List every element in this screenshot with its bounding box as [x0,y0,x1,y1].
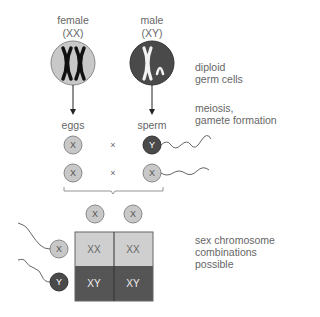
egg-x: X [64,136,82,154]
sperm-x: X [143,164,161,182]
combinations-label-line2: combinations [195,246,257,258]
punnett-cell: XX [114,232,152,266]
punnett-cell: XX [75,232,113,266]
male-germ-cell [130,41,174,85]
sperm-tail [161,135,211,148]
eggs-label: eggs [53,119,93,131]
diploid-label-line2: germ cells [195,73,243,85]
cross-symbol: × [103,167,123,179]
meiosis-label-line1: meiosis, [195,102,234,114]
female-germ-cell [51,41,95,85]
combinations-label-line3: possible [195,258,234,270]
meiosis-label-line2: gamete formation [195,114,277,126]
brace [64,187,163,194]
sperm-label: sperm [132,119,172,131]
arrow-down-icon [70,109,76,115]
punnett-top-x: X [86,205,104,223]
egg-x: X [64,164,82,182]
punnett-cell: XY [75,266,113,300]
punnett-side-x: X [50,240,68,258]
diploid-label-line1: diploid [195,61,225,73]
sperm-y: Y [143,136,161,154]
combinations-label-line1: sex chromosome [195,234,275,246]
punnett-top-x: X [124,205,142,223]
arrow-down-icon [149,109,155,115]
punnett-cell: XY [114,266,152,300]
punnett-side-y: Y [50,273,68,291]
cross-symbol: × [103,139,123,151]
sperm-tail [161,168,209,175]
